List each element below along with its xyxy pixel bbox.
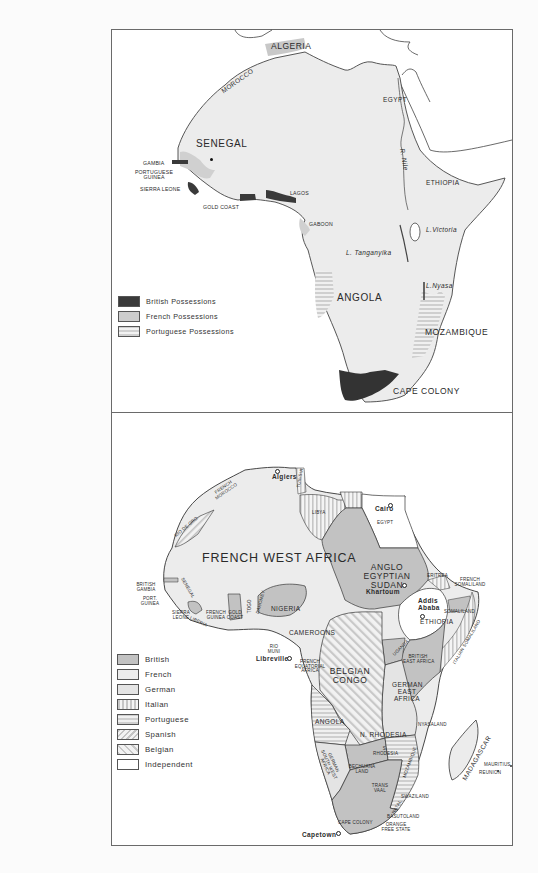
label-cape-colony: CAPE COLONY — [338, 821, 373, 826]
swatch-italian — [117, 699, 139, 710]
city-marker-cairo — [388, 503, 393, 508]
legend-item-spanish: Spanish — [117, 727, 193, 742]
label-egypt: EGYPT — [377, 521, 393, 526]
swatch-portuguese — [117, 714, 139, 725]
label-german-east-africa: GERMANEASTAFRICA — [392, 682, 422, 702]
label-somaliland: SOMALILAND — [444, 610, 475, 615]
city-marker-libreville — [287, 656, 292, 661]
label-reunion: REUNION — [479, 771, 501, 776]
swatch-german — [117, 684, 139, 695]
label-capetown: Capetown — [302, 832, 336, 839]
label-port-guinea: PORT.GUINEA — [138, 597, 162, 606]
label-basutoland: BASUTOLAND — [387, 815, 419, 820]
label-british-gambia: BRITISHGAMBIA — [131, 583, 161, 592]
swatch-british — [117, 654, 139, 665]
label-british-east-africa: BRITISHEAST AFRICA — [403, 655, 433, 664]
label-algiers: Algiers — [272, 474, 297, 481]
label-french-guinea: FRENCHGUINEA — [204, 611, 228, 620]
label-libya: LIBYA — [312, 511, 325, 516]
label-gold-coast: GOLDCOAST — [226, 611, 244, 620]
label-libreville: Libreville — [256, 656, 289, 663]
legend-item-independent: Independent — [117, 757, 193, 772]
label-french-west-africa: FRENCH WEST AFRICA — [202, 552, 356, 565]
swatch-french — [117, 669, 139, 680]
legend-item-french: French — [117, 667, 193, 682]
label-rio-muni: RIOMUNI — [266, 645, 282, 654]
label-addis-ababa: AddisAbaba — [418, 598, 440, 612]
label-french-somaliland: FRENCHSOMALILAND — [452, 578, 488, 587]
city-marker-khartoum — [402, 583, 407, 588]
map2-legend: British French German Italian Portuguese… — [117, 652, 193, 772]
label-bechuanaland: BECHUANALAND — [347, 765, 377, 774]
label-swaziland: SWAZILAND — [401, 795, 429, 800]
label-angola: ANGOLA — [315, 719, 345, 726]
label-n-rhodesia: N. RHODESIA — [360, 732, 407, 739]
legend-item-british: British — [117, 652, 193, 667]
label-khartoum: Khartoum — [366, 589, 400, 596]
city-marker-algiers — [275, 469, 280, 474]
map2-graphics — [0, 0, 538, 873]
swatch-spanish — [117, 729, 139, 740]
city-marker-capetown — [336, 831, 341, 836]
legend-item-belgian: Belgian — [117, 742, 193, 757]
legend-item-portuguese: Portuguese — [117, 712, 193, 727]
label-nigeria: NIGERIA — [271, 606, 301, 613]
label-eritrea: ERITREA — [427, 574, 448, 579]
label-french-equatorial-africa: FRENCHEQUATORIALAFRICA — [293, 660, 327, 674]
label-s-rhodesia: S.RHODESIA — [373, 747, 397, 756]
label-ethiopia: ETHIOPIA — [420, 619, 454, 626]
legend-item-german: German — [117, 682, 193, 697]
label-transvaal: TRANSVAAL — [370, 784, 390, 793]
label-mauritius: MAURITIUS — [484, 763, 511, 768]
label-belgian-congo: BELGIANCONGO — [328, 667, 372, 686]
label-cameroons: CAMEROONS — [289, 630, 335, 637]
label-orange-free-state: ORANGEFREE STATE — [381, 823, 411, 832]
label-togo: TOGO — [248, 599, 253, 613]
swatch-independent — [117, 759, 139, 770]
swatch-belgian — [117, 744, 139, 755]
label-nyasaland: NYASALAND — [418, 723, 447, 728]
legend-item-italian: Italian — [117, 697, 193, 712]
